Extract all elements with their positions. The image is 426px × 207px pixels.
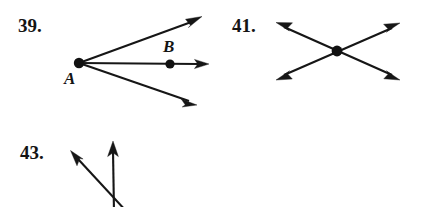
problem-39-ray-upper-arrowhead <box>186 17 203 28</box>
problem-39-vertex-a-dot <box>74 58 84 68</box>
problem-number-43: 43. <box>20 142 44 163</box>
problem-39-point-b-dot <box>165 59 174 68</box>
problem-41-group: 41. <box>232 15 400 80</box>
problem-39-label-b: B <box>162 37 174 56</box>
problem-39-ray-lower-shaft <box>79 63 189 101</box>
figures-canvas: 39. A B 41. <box>0 0 426 207</box>
problem-number-41: 41. <box>232 15 256 36</box>
problem-43-group: 43. <box>20 141 127 207</box>
problem-43-ray-vertical-shaft <box>113 150 114 207</box>
problem-39-ray-horizontal-shaft <box>79 63 198 64</box>
problem-number-39: 39. <box>18 15 42 36</box>
problem-41-intersection-dot <box>332 46 343 57</box>
problem-39-ray-upper-shaft <box>79 21 194 63</box>
problem-39-label-a: A <box>63 69 75 88</box>
problem-43-ray-upper-left-shaft <box>78 159 127 207</box>
exercise-figure-page: 39. A B 41. <box>0 0 426 207</box>
problem-39-group: 39. A B <box>18 15 209 107</box>
